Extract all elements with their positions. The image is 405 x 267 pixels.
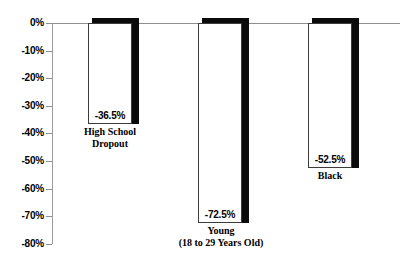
y-tick-2 [46,78,52,79]
bar-value-label-1: -72.5% [198,209,242,220]
y-tick-1 [46,51,52,52]
bar-side-face-1 [242,18,249,223]
y-tick-label-1: -10% [2,46,44,56]
y-tick-label-wrap-7: -70% [0,211,44,221]
bar-side-face-2 [352,18,359,168]
bar-category-label-0-line2: Dropout [68,138,152,150]
y-tick-4 [46,133,52,134]
y-tick-label-wrap-3: -30% [0,101,44,111]
y-tick-label-wrap-6: -60% [0,184,44,194]
y-tick-label-wrap-8: -80% [0,239,44,249]
y-tick-label-wrap-0: 0% [0,18,44,28]
bar-young-18-to-29[interactable]: -72.5% [198,23,242,223]
bar-side-face-0 [132,18,139,124]
y-tick-label-7: -70% [2,211,44,221]
y-tick-label-8: -80% [2,239,44,249]
y-tick-8 [46,244,52,245]
y-tick-0 [46,23,52,24]
bar-value-label-2: -52.5% [308,154,352,165]
bar-category-label-2-line1: Black [288,170,372,182]
y-tick-label-wrap-5: -50% [0,156,44,166]
bar-front-face-0 [88,23,132,124]
bar-category-label-1-line1: Young [156,225,286,237]
bar-category-label-0: High School Dropout [68,126,152,150]
y-tick-7 [46,216,52,217]
bar-value-label-0: -36.5% [88,110,132,121]
y-tick-label-3: -30% [2,101,44,111]
y-tick-label-wrap-1: -10% [0,46,44,56]
bar-high-school-dropout[interactable]: -36.5% [88,23,132,124]
y-tick-6 [46,189,52,190]
bar-category-label-1-line2: (18 to 29 Years Old) [156,237,286,249]
y-tick-5 [46,161,52,162]
y-tick-label-4: -40% [2,128,44,138]
y-tick-label-0: 0% [2,18,44,28]
bar-front-face-2 [308,23,352,168]
y-tick-3 [46,106,52,107]
chart-root: 0% -10% -20% -30% -40% -50% -60% -70% [0,0,405,267]
y-tick-label-wrap-2: -20% [0,73,44,83]
y-tick-label-5: -50% [2,156,44,166]
bar-category-label-1: Young (18 to 29 Years Old) [156,225,286,249]
chart-plot-area: 0% -10% -20% -30% -40% -50% -60% -70% [0,0,405,267]
y-axis-line [52,23,53,244]
bar-category-label-2: Black [288,170,372,182]
y-tick-label-wrap-4: -40% [0,128,44,138]
bar-black[interactable]: -52.5% [308,23,352,168]
y-tick-label-2: -20% [2,73,44,83]
bar-category-label-0-line1: High School [68,126,152,138]
bar-front-face-1 [198,23,242,223]
y-tick-label-6: -60% [2,184,44,194]
